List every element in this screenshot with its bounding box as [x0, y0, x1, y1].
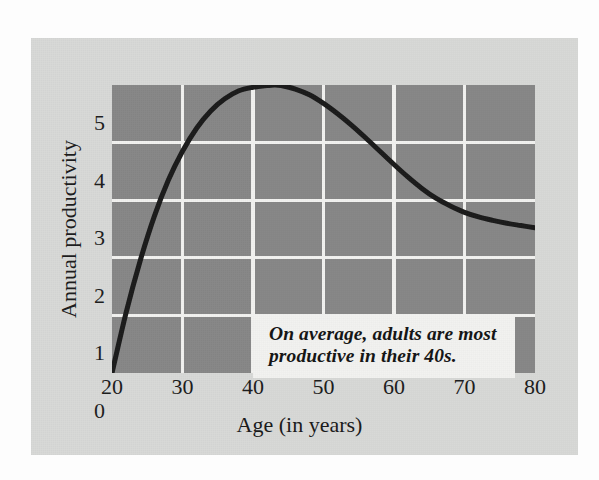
annotation-callout: On average, adults are most productive i… — [253, 314, 515, 378]
x-tick-30: 30 — [172, 376, 194, 398]
y-tick-3: 3 — [94, 227, 105, 249]
y-axis-title: Annual productivity — [56, 99, 82, 359]
annotation-line-2: productive in their 40s. — [269, 345, 457, 366]
annotation-line-1: On average, adults are most — [269, 323, 497, 344]
y-tick-4: 4 — [94, 170, 105, 192]
figure-root: On average, adults are most productive i… — [0, 0, 599, 480]
y-tick-1: 1 — [94, 342, 105, 364]
x-tick-70: 70 — [454, 376, 476, 398]
x-tick-80: 80 — [524, 376, 546, 398]
x-tick-50: 50 — [313, 376, 335, 398]
y-tick-2: 2 — [94, 285, 105, 307]
annotation-text: On average, adults are most productive i… — [269, 323, 501, 367]
x-axis-title: Age (in years) — [0, 412, 599, 438]
x-tick-20: 20 — [101, 376, 123, 398]
x-axis-tick-labels: 20 30 40 50 60 70 80 — [0, 376, 599, 410]
x-tick-60: 60 — [383, 376, 405, 398]
y-tick-5: 5 — [94, 112, 105, 134]
x-tick-40: 40 — [242, 376, 264, 398]
